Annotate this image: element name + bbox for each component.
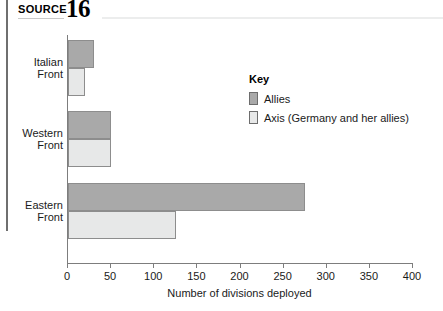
category-label: EasternFront bbox=[0, 199, 63, 223]
x-tick bbox=[153, 263, 154, 268]
bar bbox=[68, 211, 176, 239]
x-tick-label: 100 bbox=[133, 270, 173, 282]
x-tick bbox=[283, 263, 284, 268]
bar bbox=[68, 68, 85, 96]
legend-swatch-icon bbox=[249, 111, 258, 124]
x-tick bbox=[196, 263, 197, 268]
legend-title: Key bbox=[249, 73, 439, 85]
x-tick-label: 400 bbox=[392, 270, 432, 282]
legend-item: Allies bbox=[249, 92, 439, 105]
source-number: 16 bbox=[66, 0, 90, 23]
x-tick bbox=[110, 263, 111, 268]
source-label: SOURCE bbox=[18, 3, 67, 15]
legend-item-label: Allies bbox=[264, 93, 290, 105]
x-tick-label: 350 bbox=[349, 270, 389, 282]
x-tick bbox=[240, 263, 241, 268]
chart-legend: Key AlliesAxis (Germany and her allies) bbox=[249, 73, 439, 130]
x-tick bbox=[67, 263, 68, 268]
bar bbox=[68, 139, 111, 167]
x-tick-label: 0 bbox=[47, 270, 87, 282]
legend-swatch-icon bbox=[249, 92, 258, 105]
source-underline bbox=[18, 18, 64, 19]
x-tick-label: 300 bbox=[306, 270, 346, 282]
legend-item: Axis (Germany and her allies) bbox=[249, 111, 439, 124]
category-label: ItalianFront bbox=[0, 56, 63, 80]
x-tick-label: 150 bbox=[176, 270, 216, 282]
header-divider bbox=[102, 17, 443, 19]
bar bbox=[68, 111, 111, 139]
x-tick-label: 50 bbox=[90, 270, 130, 282]
bar bbox=[68, 40, 94, 68]
legend-items: AlliesAxis (Germany and her allies) bbox=[249, 92, 439, 124]
x-tick bbox=[326, 263, 327, 268]
bar-chart: 050100150200250300350400 ItalianFrontWes… bbox=[0, 28, 443, 311]
bar bbox=[68, 183, 305, 211]
legend-item-label: Axis (Germany and her allies) bbox=[264, 112, 409, 124]
x-tick-label: 250 bbox=[263, 270, 303, 282]
x-tick-label: 200 bbox=[220, 270, 260, 282]
category-label: WesternFront bbox=[0, 127, 63, 151]
source-header: SOURCE 16 bbox=[18, 0, 443, 28]
x-axis-title: Number of divisions deployed bbox=[67, 287, 412, 299]
x-tick bbox=[412, 263, 413, 268]
x-tick bbox=[369, 263, 370, 268]
